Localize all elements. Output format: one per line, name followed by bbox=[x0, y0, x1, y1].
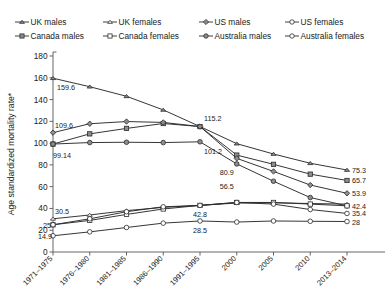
data-point-marker bbox=[271, 169, 276, 174]
legend-label: UK females bbox=[119, 17, 162, 27]
data-point-marker bbox=[271, 152, 276, 155]
data-point-label: 42.8 bbox=[193, 210, 207, 219]
data-point-marker bbox=[124, 126, 128, 130]
data-point-marker bbox=[198, 140, 203, 145]
y-tick-label: 180 bbox=[34, 51, 48, 61]
triangle-outline-marker-icon bbox=[108, 20, 113, 23]
y-tick-label: 160 bbox=[34, 73, 48, 83]
data-point-label: 53.9 bbox=[352, 189, 366, 198]
data-point-marker bbox=[271, 162, 275, 166]
data-point-marker bbox=[345, 211, 350, 216]
data-point-marker bbox=[308, 195, 313, 200]
circle-marker-icon bbox=[204, 34, 208, 38]
data-point-marker bbox=[124, 140, 129, 145]
legend-label: UK males bbox=[31, 17, 67, 27]
legend-item-uk-females[interactable]: UK females bbox=[103, 17, 161, 27]
data-point-label: 56.5 bbox=[220, 182, 234, 191]
circle-outline-marker-icon bbox=[290, 34, 294, 38]
data-point-marker bbox=[161, 108, 166, 111]
data-point-marker bbox=[50, 76, 55, 79]
data-point-marker bbox=[51, 142, 56, 147]
legend-item-australia-females[interactable]: Australia females bbox=[285, 31, 364, 41]
legend-item-uk-males[interactable]: UK males bbox=[15, 17, 66, 27]
x-tick-label: 1976–1980 bbox=[58, 254, 91, 287]
data-point-label: 28.5 bbox=[193, 226, 207, 235]
diamond-marker-icon bbox=[203, 19, 208, 24]
legend-item-australia-males[interactable]: Australia males bbox=[199, 31, 271, 41]
data-point-marker bbox=[87, 216, 92, 221]
data-point-marker bbox=[50, 130, 55, 135]
square-outline-marker-icon bbox=[108, 34, 112, 38]
data-point-marker bbox=[271, 179, 276, 184]
data-point-label: 159.6 bbox=[57, 83, 75, 92]
y-tick-label: 120 bbox=[34, 116, 48, 126]
data-point-label: 65.7 bbox=[352, 176, 366, 185]
y-tick-label: 100 bbox=[34, 138, 48, 148]
legend-label: Australia males bbox=[215, 31, 272, 41]
data-point-marker bbox=[345, 178, 349, 182]
legend-label: US females bbox=[301, 17, 344, 27]
legend-item-canada-males[interactable]: Canada males bbox=[15, 31, 84, 41]
data-point-marker bbox=[88, 132, 92, 136]
data-point-marker bbox=[124, 95, 129, 98]
y-tick-label: 60 bbox=[38, 182, 48, 192]
data-point-label: 14.9 bbox=[38, 232, 52, 241]
x-tick-label: 2000 bbox=[220, 254, 238, 272]
data-point-marker bbox=[161, 140, 166, 145]
data-point-marker bbox=[87, 85, 92, 88]
data-point-label: 101.2 bbox=[204, 147, 222, 156]
legend-label: Canada females bbox=[119, 31, 179, 41]
data-point-label: 28 bbox=[352, 218, 360, 227]
data-point-marker bbox=[198, 203, 203, 208]
data-point-label: 30.5 bbox=[55, 207, 69, 216]
data-point-marker bbox=[345, 219, 350, 224]
data-point-label: 80.9 bbox=[220, 168, 234, 177]
x-tick-label: 1991–1995 bbox=[168, 254, 201, 287]
data-point-marker bbox=[50, 217, 55, 220]
x-tick-label: 1986–1990 bbox=[131, 254, 164, 287]
data-point-marker bbox=[87, 213, 92, 216]
y-axis-title: Age standardized mortality rate* bbox=[6, 92, 16, 215]
legend-label: Canada males bbox=[31, 31, 85, 41]
data-point-marker bbox=[124, 119, 129, 124]
mortality-rate-line-chart: UK malesUK femalesUS malesUS femalesCana… bbox=[0, 0, 392, 306]
data-point-marker bbox=[234, 162, 239, 167]
data-point-marker bbox=[344, 168, 349, 171]
legend-item-canada-females[interactable]: Canada females bbox=[103, 31, 179, 41]
data-point-marker bbox=[234, 220, 239, 225]
x-tick-label: 2010 bbox=[293, 254, 311, 272]
data-point-marker bbox=[271, 202, 276, 207]
data-point-marker bbox=[124, 225, 129, 230]
data-point-label: 75.3 bbox=[352, 166, 366, 175]
data-point-marker bbox=[51, 222, 56, 227]
y-tick-label: 140 bbox=[34, 95, 48, 105]
chart-canvas: UK malesUK femalesUS malesUS femalesCana… bbox=[0, 0, 392, 306]
legend-label: US males bbox=[215, 17, 251, 27]
series-path bbox=[53, 142, 347, 206]
square-marker-icon bbox=[20, 34, 24, 38]
y-tick-label: 80 bbox=[38, 160, 48, 170]
data-point-marker bbox=[161, 221, 166, 226]
triangle-marker-icon bbox=[20, 20, 25, 23]
series-canada-males bbox=[51, 121, 349, 182]
data-point-marker bbox=[124, 209, 129, 214]
data-point-marker bbox=[308, 207, 313, 212]
legend-label: Australia females bbox=[301, 31, 365, 41]
circle-outline-marker-icon bbox=[290, 20, 294, 24]
data-point-marker bbox=[234, 200, 239, 205]
data-point-marker bbox=[87, 230, 92, 235]
data-point-marker bbox=[345, 204, 349, 208]
series-australia-males bbox=[51, 140, 350, 209]
legend-item-us-males[interactable]: US males bbox=[199, 17, 250, 27]
legend-item-us-females[interactable]: US females bbox=[285, 17, 343, 27]
data-point-marker bbox=[308, 219, 313, 224]
x-tick-label: 1971–1975 bbox=[21, 254, 54, 287]
x-tick-label: 2013–2014 bbox=[315, 254, 348, 287]
data-point-marker bbox=[87, 121, 92, 126]
data-point-label: 25 bbox=[43, 221, 51, 230]
data-point-marker bbox=[271, 219, 276, 224]
data-point-marker bbox=[344, 191, 349, 196]
data-point-marker bbox=[308, 172, 312, 176]
data-point-label: 109.6 bbox=[55, 121, 73, 130]
data-point-marker bbox=[87, 140, 92, 145]
